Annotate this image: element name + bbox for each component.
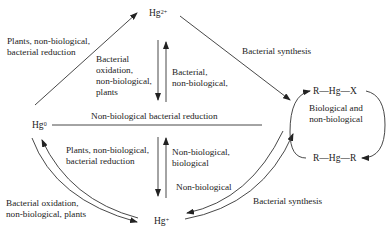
label-hgplus-to-organo: Bacterial synthesis [253,196,322,207]
label-hg0-hgplus: Bacterial oxidation, non-biological, pla… [6,198,86,220]
label-organo-cycle: Biological and non-biological [309,103,363,125]
label-hg2-to-organo: Bacterial synthesis [242,46,311,57]
node-hg0: Hg0 [32,120,47,131]
label-hg0-to-hg2: Plants, non-biological, bacterial reduct… [7,36,90,58]
label-organo-to-hgplus: Non-biological [176,182,232,193]
label-hgplus-down: Plants, non-biological, bacterial reduct… [66,145,149,167]
label-hg0-line: Non-biological bacterial reduction [91,111,218,122]
mercury-cycle-diagram: Hg2+ Hg0 Hg+ R—Hg—X R—Hg—R Plants, non-b… [0,0,389,231]
node-r-hg-r: R—Hg—R [313,153,356,164]
label-hgplus-up: Non-biological, biological [172,147,230,169]
node-hgplus: Hg+ [154,216,169,227]
label-hg2-up: Bacterial, non-biological, [172,67,228,89]
label-hg2-down: Bacterial oxidation, non-biological, pla… [96,54,152,98]
node-r-hg-x: R—Hg—X [313,86,357,97]
node-hg2plus: Hg2+ [149,8,167,19]
